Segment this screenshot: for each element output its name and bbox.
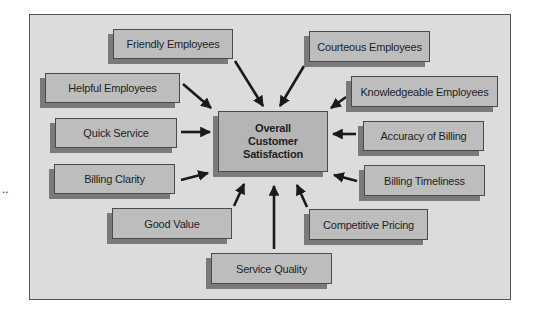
factor-knowledgeable-employees: Knowledgeable Employees	[351, 76, 498, 107]
factor-label: Helpful Employees	[68, 82, 156, 94]
factor-competitive-pricing: Competitive Pricing	[309, 209, 428, 240]
factor-label: Quick Service	[83, 127, 148, 139]
factor-label: Friendly Employees	[127, 38, 220, 50]
factor-label: Good Value	[144, 218, 199, 230]
factor-friendly-employees: Friendly Employees	[113, 29, 233, 59]
factor-service-quality: Service Quality	[211, 253, 332, 284]
factor-quick-service: Quick Service	[55, 118, 177, 148]
factor-label: Billing Timeliness	[384, 175, 465, 187]
center-label: Overall Customer Satisfaction	[243, 122, 303, 161]
factor-accuracy-of-billing: Accuracy of Billing	[363, 121, 484, 151]
factor-helpful-employees: Helpful Employees	[45, 73, 180, 103]
factor-billing-timeliness: Billing Timeliness	[364, 165, 485, 196]
margin-mark: ..	[2, 184, 9, 194]
factor-billing-clarity: Billing Clarity	[54, 164, 175, 194]
factor-label: Courteous Employees	[317, 41, 421, 53]
factor-label: Knowledgeable Employees	[360, 86, 488, 98]
factor-label: Competitive Pricing	[323, 219, 414, 231]
factor-label: Service Quality	[236, 263, 307, 275]
factor-label: Accuracy of Billing	[380, 130, 466, 142]
factor-courteous-employees: Courteous Employees	[309, 31, 430, 62]
factor-good-value: Good Value	[112, 208, 232, 239]
center-node-overall-customer-satisfaction: Overall Customer Satisfaction	[218, 111, 328, 172]
factor-label: Billing Clarity	[84, 173, 145, 185]
